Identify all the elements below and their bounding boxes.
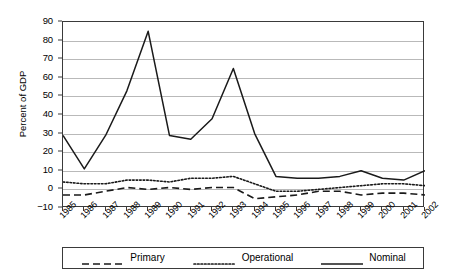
y-tick-label: 10 [43, 165, 53, 175]
legend-label: Primary [130, 253, 164, 263]
y-axis: Percent of GDP −100102030405060708090 [0, 0, 62, 208]
solid-line-swatch [320, 254, 364, 262]
legend-label: Nominal [369, 253, 406, 263]
y-tick-label: 60 [43, 72, 53, 82]
chart-figure: Percent of GDP −100102030405060708090 19… [0, 0, 465, 278]
dashed-line-swatch [81, 254, 125, 262]
y-tick-label: 90 [43, 16, 53, 26]
series-line-operational [63, 176, 425, 191]
y-axis-title: Percent of GDP [17, 44, 28, 164]
legend-item-operational[interactable]: Operational [183, 253, 303, 263]
legend-item-primary[interactable]: Primary [63, 253, 183, 263]
series-line-nominal [63, 31, 425, 180]
series-line-primary [63, 188, 425, 199]
y-tick-label: 40 [43, 109, 53, 119]
x-axis: 1985198619871988198919901991199219931994… [62, 207, 425, 249]
y-tick-label: 70 [43, 53, 53, 63]
y-tick-label: 50 [43, 91, 53, 101]
y-tick-label: −10 [37, 202, 53, 212]
y-tick-label: 0 [48, 184, 53, 194]
plot-area [62, 21, 424, 207]
series-lines [63, 22, 425, 208]
chart-legend: PrimaryOperationalNominal [62, 247, 424, 269]
dotted-line-swatch [193, 254, 237, 262]
legend-label: Operational [242, 253, 294, 263]
legend-item-nominal[interactable]: Nominal [303, 253, 423, 263]
y-tick-label: 80 [43, 35, 53, 45]
y-tick-label: 30 [43, 128, 53, 138]
y-tick-label: 20 [43, 146, 53, 156]
